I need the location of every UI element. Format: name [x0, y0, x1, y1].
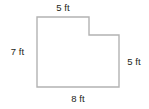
geometry-figure: 5 ft 7 ft 5 ft 8 ft	[0, 0, 149, 109]
dimension-label-bottom: 8 ft	[37, 93, 119, 104]
dimension-label-top: 5 ft	[37, 2, 89, 13]
composite-figure-outline	[37, 17, 119, 87]
dimension-label-right: 5 ft	[121, 56, 147, 67]
dimension-label-left: 7 ft	[2, 46, 33, 57]
